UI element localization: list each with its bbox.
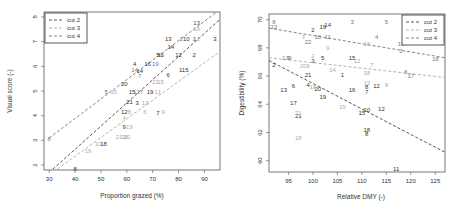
x-tick-label: 110 [357, 178, 367, 184]
point-label: 18 [363, 70, 370, 76]
point-label: 115 [179, 67, 189, 73]
point-label: 12 [175, 52, 182, 58]
point-label: 16 [349, 87, 356, 93]
x-tick-label: 125 [430, 178, 441, 184]
y-tick-label: 5 [32, 89, 38, 93]
point-label: 20 [123, 134, 130, 140]
y-tick-label: 60 [257, 157, 263, 164]
x-tick-label: 100 [308, 178, 319, 184]
point-label: 16 [310, 84, 317, 90]
point-label: 16 [363, 41, 370, 47]
x-axis-title: Relative DMY (-) [337, 193, 385, 201]
point-label: 17 [136, 89, 143, 95]
legend-item-label: cut 3 [424, 27, 438, 33]
point-label: 15 [157, 79, 164, 85]
x-tick-label: 70 [149, 176, 156, 182]
x-tick-label: 30 [46, 176, 53, 182]
point-label: 10 [183, 36, 190, 42]
point-label: 10 [363, 107, 370, 113]
point-label: 18 [295, 135, 302, 141]
point-label: 16 [144, 61, 151, 67]
point-label: 20 [121, 81, 128, 87]
legend-item-label: cut 3 [67, 25, 81, 31]
y-tick-label: 68 [257, 44, 263, 51]
x-axis-title: Proportion grazed (%) [100, 192, 164, 200]
point-label: 19 [319, 94, 326, 100]
point-label: 19 [339, 104, 346, 110]
point-label: 13 [271, 24, 278, 30]
point-label: 15 [111, 89, 118, 95]
y-tick-label: 4 [32, 113, 38, 117]
x-tick-label: 90 [201, 176, 208, 182]
point-label: 11 [155, 89, 162, 95]
point-label: 21 [126, 99, 133, 105]
point-label: 10 [95, 141, 102, 147]
point-label: 19 [147, 89, 154, 95]
point-label: 11 [325, 34, 332, 40]
y-axis-title: Visual score (-) [6, 69, 14, 113]
x-tick-label: 105 [332, 178, 343, 184]
x-tick-label: 115 [382, 178, 392, 184]
y-tick-label: 2 [32, 163, 38, 167]
x-tick-label: 80 [175, 176, 182, 182]
point-label: 21 [295, 110, 302, 116]
point-label: 13 [165, 36, 172, 42]
x-tick-label: 95 [285, 178, 292, 184]
point-label: 11 [393, 166, 400, 172]
legend: cut 2cut 3cut 4 [45, 13, 87, 43]
y-axis: 2345678 [32, 15, 44, 167]
point-label: 14 [167, 44, 174, 50]
legend: cut 2cut 3cut 4 [402, 15, 444, 45]
legend-item-label: cut 4 [424, 35, 438, 41]
point-label: 13 [142, 100, 149, 106]
y-tick-label: 66 [257, 72, 263, 79]
y-tick-label: 6 [32, 64, 38, 68]
point-label: 12 [373, 83, 380, 89]
point-label: 19 [285, 55, 292, 61]
legend-item-label: cut 2 [424, 19, 438, 25]
x-tick-label: 40 [72, 176, 79, 182]
x-tick-label: 60 [123, 176, 130, 182]
y-tick-label: 64 [257, 100, 263, 107]
point-label: 19 [126, 124, 133, 130]
y-tick-label: 3 [32, 138, 38, 142]
y-tick-label: 62 [257, 129, 263, 136]
y-axis: 606264666870 [257, 16, 269, 164]
point-label: 13 [280, 87, 287, 93]
legend-item-label: cut 4 [67, 33, 81, 39]
point-label: 19 [85, 148, 92, 154]
x-tick-label: 120 [406, 178, 417, 184]
x-axis: 30405060708090 [46, 170, 209, 182]
chart-canvas: 8189122131519720611541416511122131410319… [0, 0, 462, 213]
point-label: 13 [193, 20, 200, 26]
left-scatter-plot: 8189122131519720611541416511122131410319… [6, 10, 220, 200]
point-label: 22 [305, 39, 312, 45]
legend-item-label: cut 2 [67, 17, 81, 23]
point-label: 14 [329, 67, 336, 73]
x-tick-label: 50 [98, 176, 105, 182]
y-axis-title: Digestibility (%) [238, 71, 246, 116]
point-label: 14 [324, 22, 331, 28]
point-label: 17 [290, 100, 297, 106]
point-label: 14 [131, 67, 138, 73]
point-label: 13 [363, 80, 370, 86]
point-label: 16 [193, 26, 200, 32]
x-axis: 95100105110115120125 [285, 172, 441, 184]
y-tick-label: 70 [257, 16, 263, 23]
point-label: 12 [378, 106, 385, 112]
point-label: 21 [305, 72, 312, 78]
y-tick-label: 7 [32, 39, 38, 43]
point-label: 10 [315, 34, 322, 40]
point-label: 18 [432, 56, 439, 62]
point-label: 12 [354, 58, 361, 64]
right-scatter-plot: 2136172121420193521914911615108712121881… [238, 14, 445, 201]
point-label: 17 [407, 73, 414, 79]
point-label: 19 [152, 61, 159, 67]
y-tick-label: 8 [32, 15, 38, 19]
point-label: 20 [157, 52, 164, 58]
